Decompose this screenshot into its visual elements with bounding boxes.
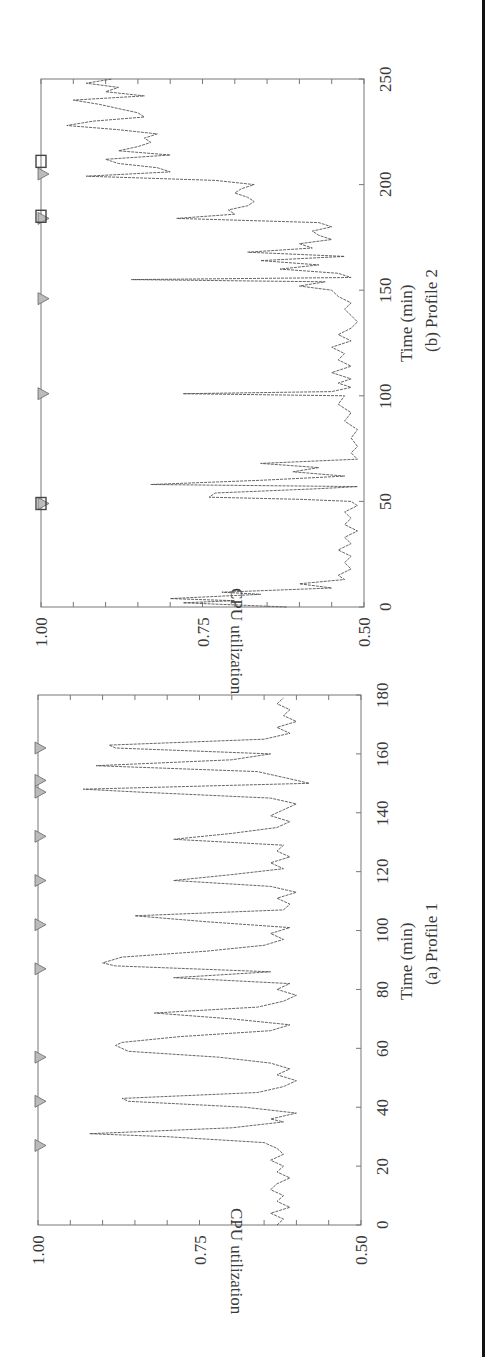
time-tick-label: 200 (376, 172, 396, 198)
cpu-tick-label: 1.00 (29, 1235, 49, 1265)
triangle-marker-icon (38, 168, 49, 180)
cpu-tick-label: 0.50 (355, 617, 375, 647)
triangle-marker-icon (35, 774, 46, 786)
time-tick-label: 160 (373, 741, 393, 767)
time-tick-label: 150 (376, 277, 396, 303)
cpu-utilization-trace (67, 79, 358, 607)
profile1-plot (35, 695, 361, 1225)
triangle-marker-icon (35, 742, 46, 754)
triangle-marker-icon (38, 388, 49, 400)
triangle-marker-icon (35, 786, 46, 798)
triangle-marker-icon (35, 963, 46, 975)
profile2-x-axis-title: Time (min) (397, 285, 417, 362)
triangle-marker-icon (38, 293, 49, 305)
profile1-caption: (a) Profile 1 (422, 903, 442, 985)
time-tick-label: 120 (373, 859, 393, 885)
plot-frame (38, 695, 361, 1225)
time-tick-label: 80 (373, 981, 393, 998)
time-tick-label: 140 (373, 800, 393, 826)
time-tick-label: 40 (373, 1099, 393, 1116)
triangle-marker-icon (38, 498, 49, 510)
profile2-plot (36, 79, 364, 607)
triangle-marker-icon (35, 875, 46, 887)
time-tick-label: 0 (373, 1221, 393, 1230)
time-tick-label: 100 (373, 918, 393, 944)
profile1-y-axis-title: CPU utilization (226, 1208, 246, 1314)
cpu-tick-label: 0.50 (352, 1235, 372, 1265)
plot-frame (41, 79, 364, 607)
cpu-utilization-trace (83, 698, 309, 1225)
time-tick-label: 250 (376, 66, 396, 92)
time-tick-label: 0 (376, 603, 396, 612)
triangle-marker-icon (35, 830, 46, 842)
cpu-tick-label: 0.75 (194, 617, 214, 647)
profile2-y-axis-title: CPU utilization (226, 588, 246, 694)
profile1-x-axis-title: Time (min) (397, 923, 417, 1000)
cpu-tick-label: 1.00 (32, 617, 52, 647)
time-tick-label: 50 (376, 493, 396, 510)
time-tick-label: 20 (373, 1158, 393, 1175)
triangle-marker-icon (35, 1051, 46, 1063)
triangle-marker-icon (35, 1140, 46, 1152)
profile2-caption: (b) Profile 2 (422, 269, 442, 352)
time-tick-label: 100 (376, 383, 396, 409)
cpu-tick-label: 0.75 (191, 1235, 211, 1265)
time-tick-label: 180 (373, 682, 393, 708)
triangle-marker-icon (35, 1095, 46, 1107)
time-tick-label: 60 (373, 1040, 393, 1057)
triangle-marker-icon (35, 919, 46, 931)
